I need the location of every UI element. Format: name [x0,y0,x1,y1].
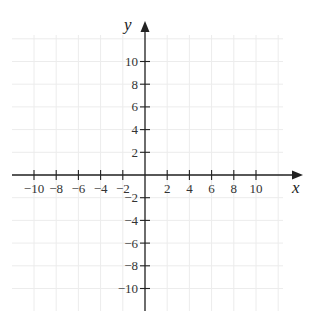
y-axis-label: y [122,15,132,34]
y-tick-label: 4 [132,122,139,137]
y-axis-arrow-icon [141,21,150,32]
y-tick-label: 10 [125,54,138,69]
x-axis-label: x [291,178,300,197]
grid-lines [12,35,283,311]
y-tick-label: 6 [132,99,139,114]
y-tick-label: −10 [118,281,138,296]
x-tick-label: −6 [71,181,85,196]
y-tick-label: −6 [124,236,138,251]
x-tick-label: 8 [231,181,238,196]
x-tick-label: −8 [49,181,63,196]
y-tick-label: −4 [124,213,138,228]
x-tick-label: −10 [24,181,44,196]
x-tick-label: −4 [94,181,108,196]
x-tick-label: 6 [208,181,215,196]
y-tick-label: 8 [132,77,139,92]
y-tick-label: −2 [124,190,138,205]
x-axis-ticks: −10−8−6−4−2246810 [24,170,263,196]
x-tick-label: 10 [250,181,263,196]
coordinate-plane: −10−8−6−4−2246810 x 108642−2−4−6−8−10 y [0,0,315,311]
y-tick-label: 2 [132,145,139,160]
y-tick-label: −8 [124,258,138,273]
x-axis: −10−8−6−4−2246810 x [12,170,303,197]
x-tick-label: 4 [186,181,193,196]
x-tick-label: 2 [164,181,171,196]
